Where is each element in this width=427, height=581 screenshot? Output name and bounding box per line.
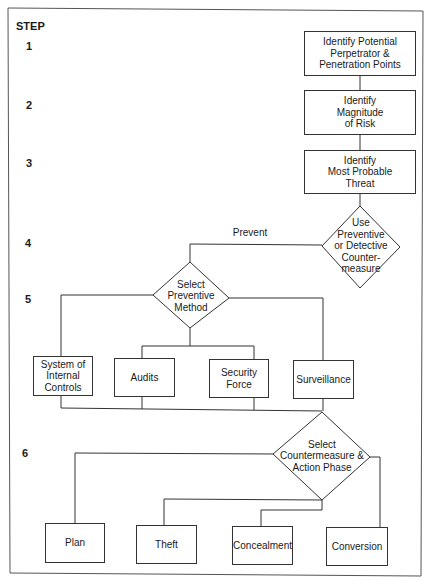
decision-select-preventive: Select Preventive Method: [155, 276, 227, 316]
edge-label-prevent: Prevent: [230, 227, 270, 239]
step-header: STEP: [16, 20, 45, 32]
edge-to-theft: [164, 499, 322, 525]
flowchart-canvas: STEP 1 2 3 4 5 6 Identify Potential Perp…: [0, 0, 427, 581]
node-conversion: Conversion: [326, 527, 388, 566]
step-number-5: 5: [25, 293, 31, 305]
decision-use-countermeasure: Use Preventive or Detective Counter- mea…: [325, 212, 397, 280]
step-number-4: 4: [25, 237, 31, 249]
node-plan: Plan: [45, 523, 105, 563]
edge-to-plan: [75, 453, 273, 523]
step-number-2: 2: [26, 99, 32, 111]
edge-prevent: [190, 244, 322, 262]
node-identify-perpetrator: Identify Potential Perpetrator & Penetra…: [304, 31, 416, 76]
node-identify-threat: Identify Most Probable Threat: [304, 150, 416, 194]
node-internal-controls: System of Internal Controls: [33, 356, 93, 396]
node-security-force: Security Force: [209, 359, 269, 398]
node-concealment: Concealment: [232, 526, 293, 565]
step-number-3: 3: [26, 157, 32, 169]
step-number-1: 1: [26, 40, 32, 52]
edge-to-concealment: [261, 500, 322, 526]
step-number-6: 6: [22, 447, 28, 459]
node-audits: Audits: [114, 358, 175, 397]
node-identify-magnitude: Identify Magnitude of Risk: [304, 90, 416, 135]
node-theft: Theft: [136, 525, 197, 564]
node-surveillance: Surveillance: [293, 360, 354, 399]
edge-to-internal-controls: [61, 295, 153, 356]
decision-select-countermeasure: Select Countermeasure & Action Phase: [270, 436, 374, 476]
edge-to-surveillance: [229, 298, 323, 360]
edge-merge-row: [61, 395, 322, 411]
